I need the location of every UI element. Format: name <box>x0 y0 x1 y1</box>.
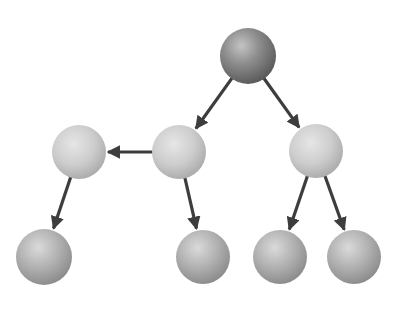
nodes-group <box>16 28 381 285</box>
node-root <box>220 28 276 84</box>
node-mid-c <box>289 124 343 178</box>
node-leaf-3 <box>253 230 307 284</box>
arrow-mid-c-to-leaf-3 <box>289 176 307 230</box>
arrow-mid-c-to-leaf-4 <box>325 176 344 230</box>
node-leaf-4 <box>327 230 381 284</box>
arrow-mid-a-to-leaf-1 <box>54 177 71 229</box>
node-leaf-1 <box>16 229 72 285</box>
node-mid-a <box>52 125 106 179</box>
node-leaf-2 <box>176 230 230 284</box>
node-mid-b <box>152 125 206 179</box>
tree-diagram <box>0 0 402 332</box>
arrow-root-to-mid-b <box>196 78 232 129</box>
arrow-mid-b-to-leaf-2 <box>185 177 197 228</box>
arrow-root-to-mid-c <box>264 78 299 127</box>
